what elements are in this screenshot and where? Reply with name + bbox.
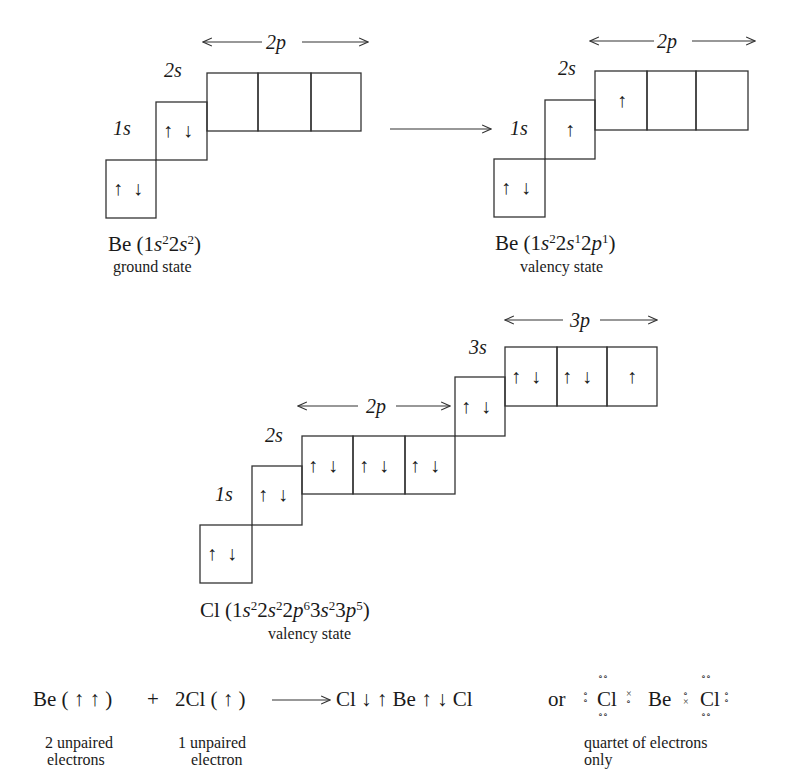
equation-reactant-cl: 2Cl ( ↑ ) [175, 689, 246, 710]
note-cl-unpaired: 1 unpaired electron [178, 735, 246, 769]
cl-formula: Cl (1s22s22p63s23p5) [200, 600, 370, 621]
cl-state-caption: valency state [268, 626, 351, 642]
cl-3s-label: 3s [469, 337, 487, 357]
be-valency-2s-label: 2s [558, 58, 576, 78]
be-valency-1s-label: 1s [510, 118, 528, 138]
cl-2p-orbital-3-electrons: ↑ ↓ [410, 455, 440, 475]
note-lewis-quartet: quartet of electrons only [584, 735, 708, 769]
cl-2p-label: 2p [366, 396, 386, 416]
be-valency-2s-electrons: ↑ [565, 119, 575, 139]
cl-3s-electrons: ↑ ↓ [461, 396, 491, 416]
be-valency-2p-electrons: ↑ [617, 90, 627, 110]
lewis-electron-pair-icon: ∘∘ [598, 710, 608, 720]
note-be-unpaired: 2 unpaired electrons [45, 735, 113, 769]
cl-2p-orbital-1-electrons: ↑ ↓ [308, 455, 338, 475]
lewis-be: Be [648, 689, 671, 710]
lewis-shared-pair-icon: ×∘ [626, 690, 632, 706]
cl-2s-label: 2s [265, 425, 283, 445]
cl-1s-electrons: ↑ ↓ [207, 543, 237, 563]
cl-2p-orbital-2-electrons: ↑ ↓ [359, 455, 389, 475]
be-valency-1s-electrons: ↑ ↓ [501, 177, 531, 197]
cl-3p-orbital-3-electrons: ↑ [627, 366, 637, 386]
lewis-electron-pair-icon: ∘∘ [598, 672, 608, 682]
be-ground-1s-electrons: ↑ ↓ [113, 178, 143, 198]
be-ground-state-caption: ground state [113, 259, 192, 275]
equation-product: Cl ↓ ↑ Be ↑ ↓ Cl [336, 689, 473, 710]
be-ground-formula: Be (1s22s2) [108, 234, 201, 255]
be-valency-formula: Be (1s22s12p1) [495, 233, 616, 254]
cl-3p-label: 3p [570, 310, 590, 330]
equation-or: or [548, 689, 566, 710]
equation-reactant-be: Be ( ↑ ↑ ) [33, 689, 112, 710]
lewis-electron-pair-icon: ∘∘ [583, 690, 588, 704]
cl-2s-electrons: ↑ ↓ [258, 484, 288, 504]
cl-3p-orbital-2-electrons: ↑ ↓ [562, 366, 592, 386]
be-valency-2p-label: 2p [657, 31, 677, 51]
be-ground-2s-label: 2s [164, 60, 182, 80]
lewis-electron-pair-icon: ∘∘ [701, 672, 711, 682]
cl-1s-label: 1s [215, 484, 233, 504]
lewis-cl-right: Cl [700, 689, 720, 710]
be-ground-2p-label: 2p [266, 32, 286, 52]
be-ground-1s-label: 1s [113, 118, 131, 138]
lewis-cl-left: Cl [597, 689, 617, 710]
lewis-electron-pair-icon: ∘∘ [701, 710, 711, 720]
lewis-shared-pair-icon: ∘× [683, 690, 689, 706]
orbital-diagram-figure: 1s 2s 2p ↑ ↓ ↑ ↓ Be (1s22s2) ground stat… [0, 0, 786, 782]
be-ground-2s-electrons: ↑ ↓ [163, 120, 193, 140]
cl-3p-orbital-1-electrons: ↑ ↓ [511, 366, 541, 386]
equation-plus: + [147, 689, 159, 710]
be-ground-orbital-boxes [106, 73, 361, 218]
be-valency-state-caption: valency state [520, 259, 603, 275]
lewis-electron-pair-icon: ∘∘ [724, 690, 729, 704]
